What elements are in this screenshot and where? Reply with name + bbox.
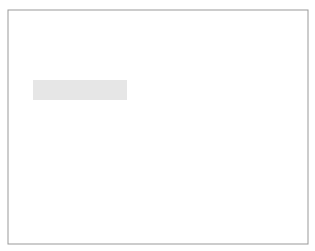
figure-frame (8, 10, 308, 244)
air-track-diagram (0, 0, 315, 251)
panel-a (33, 80, 127, 100)
